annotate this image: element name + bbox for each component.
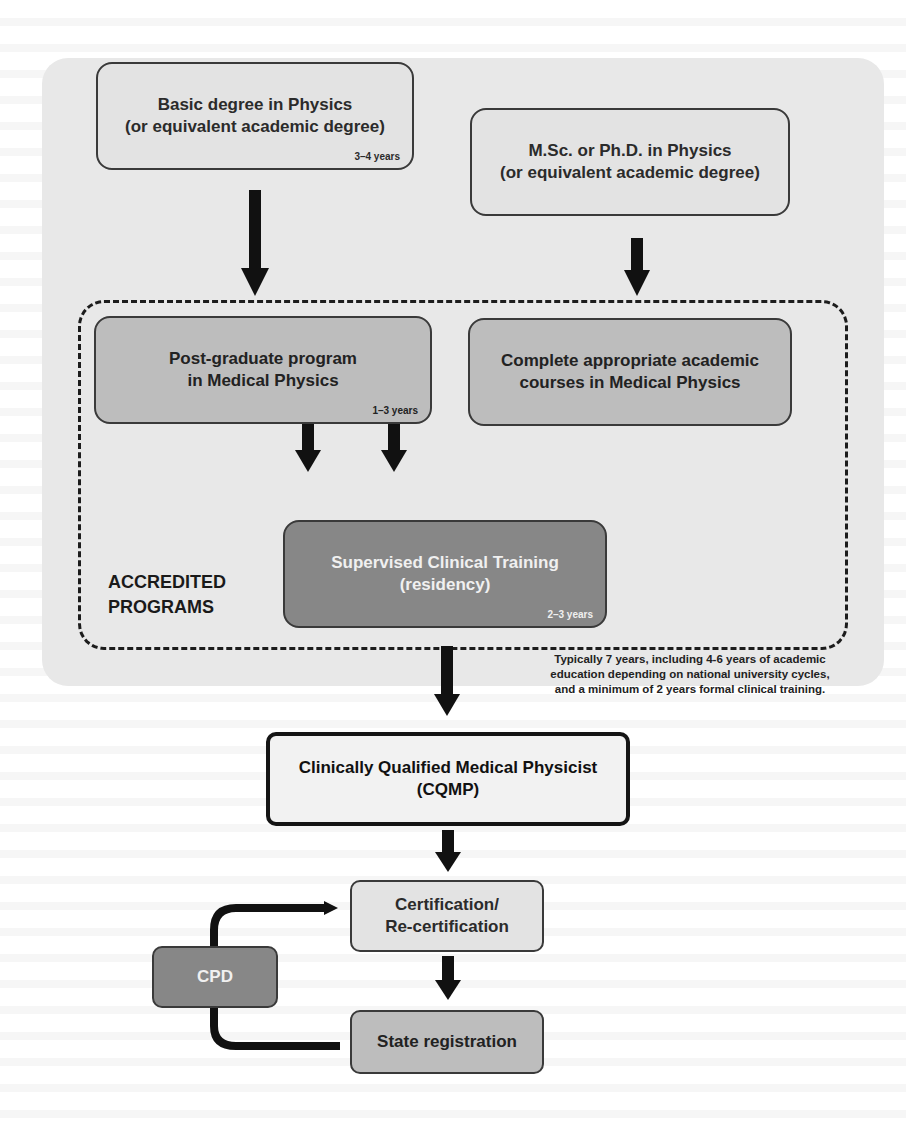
accredited-label-line2: PROGRAMS: [108, 595, 226, 620]
courses-title-line1: Complete appropriate academic: [501, 350, 759, 372]
arrow-down-icon: [624, 238, 650, 296]
cqmp-title-line1: Clinically Qualified Medical Physicist: [299, 757, 598, 779]
residency-title-line1: Supervised Clinical Training: [331, 552, 559, 574]
basic-degree-title-line1: Basic degree in Physics: [158, 94, 353, 116]
basic-degree-title-line2: (or equivalent academic degree): [125, 116, 385, 138]
msc-phd-box: M.Sc. or Ph.D. in Physics (or equivalent…: [470, 108, 790, 216]
certification-box: Certification/ Re-certification: [350, 880, 544, 952]
arrow-down-icon: [435, 830, 461, 872]
courses-title-line2: courses in Medical Physics: [519, 372, 740, 394]
residency-duration: 2–3 years: [547, 609, 593, 620]
arrow-down-icon: [434, 646, 460, 716]
postgrad-title-line2: in Medical Physics: [187, 370, 338, 392]
cqmp-box: Clinically Qualified Medical Physicist (…: [266, 732, 630, 826]
residency-box: Supervised Clinical Training (residency)…: [283, 520, 607, 628]
postgrad-title-line1: Post-graduate program: [169, 348, 357, 370]
note-line2: education depending on national universi…: [540, 667, 840, 682]
academic-courses-box: Complete appropriate academic courses in…: [468, 318, 792, 426]
basic-degree-box: Basic degree in Physics (or equivalent a…: [96, 62, 414, 170]
cqmp-title-line2: (CQMP): [417, 779, 479, 801]
duration-note: Typically 7 years, including 4-6 years o…: [540, 652, 840, 697]
certification-title-line1: Certification/: [395, 894, 499, 916]
certification-title-line2: Re-certification: [385, 916, 509, 938]
note-line1: Typically 7 years, including 4-6 years o…: [540, 652, 840, 667]
msc-phd-title-line2: (or equivalent academic degree): [500, 162, 760, 184]
arrow-down-icon: [435, 956, 461, 1000]
cpd-box: CPD: [152, 946, 278, 1008]
postgrad-duration: 1–3 years: [372, 405, 418, 416]
arrow-down-icon: [241, 190, 269, 296]
cpd-title: CPD: [197, 966, 233, 988]
msc-phd-title-line1: M.Sc. or Ph.D. in Physics: [528, 140, 731, 162]
state-registration-box: State registration: [350, 1010, 544, 1074]
state-registration-title: State registration: [377, 1031, 517, 1053]
accredited-label-line1: ACCREDITED: [108, 570, 226, 595]
basic-degree-duration: 3–4 years: [354, 151, 400, 162]
postgrad-program-box: Post-graduate program in Medical Physics…: [94, 316, 432, 424]
residency-title-line2: (residency): [400, 574, 491, 596]
accredited-programs-label: ACCREDITED PROGRAMS: [108, 570, 226, 620]
note-line3: and a minimum of 2 years formal clinical…: [540, 682, 840, 697]
